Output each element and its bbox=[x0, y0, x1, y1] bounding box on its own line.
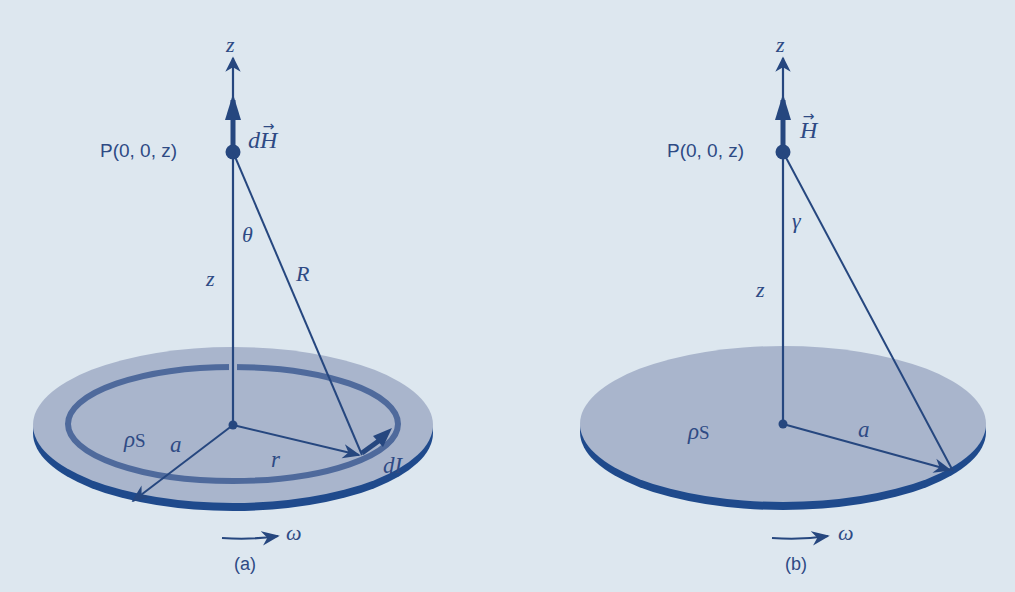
omega-label-a: ω bbox=[286, 522, 302, 544]
dH-var: →H bbox=[260, 128, 277, 152]
panel-a-graphics bbox=[33, 58, 433, 539]
dH-label: d→H bbox=[248, 128, 277, 152]
gamma-label: γ bbox=[792, 210, 801, 232]
H-label: →H bbox=[800, 118, 817, 142]
dI-label: dI bbox=[383, 454, 402, 477]
dH-prefix: d bbox=[248, 127, 260, 153]
caption-a: (a) bbox=[234, 555, 256, 573]
H-var: →H bbox=[800, 118, 817, 142]
point-p-label-b: P(0, 0, z) bbox=[667, 141, 744, 160]
z-axis-label-b: z bbox=[776, 34, 785, 56]
point-p-text-b: P(0, 0, z) bbox=[667, 140, 744, 161]
z-height-label-b: z bbox=[756, 279, 765, 301]
point-p-label-a: P(0, 0, z) bbox=[100, 141, 177, 160]
figure: z P(0, 0, z) d→H θ z R ρS a r dI ω (a) z… bbox=[0, 0, 1015, 592]
diagram-graphics bbox=[0, 0, 1015, 592]
rho-s-label-a: ρS bbox=[124, 428, 146, 451]
r-label: r bbox=[271, 448, 280, 471]
panel-b-graphics bbox=[580, 58, 986, 539]
theta-label: θ bbox=[242, 224, 253, 246]
z-height-label-a: z bbox=[206, 268, 215, 290]
rotation-arrow-a bbox=[222, 536, 278, 539]
rho-s-label-b: ρS bbox=[688, 420, 710, 443]
a-label-b: a bbox=[858, 418, 870, 441]
a-label-a: a bbox=[170, 433, 182, 456]
point-p-text: P(0, 0, z) bbox=[100, 140, 177, 161]
vector-arrow-icon: → bbox=[260, 119, 277, 133]
R-label: R bbox=[296, 263, 309, 285]
z-axis-label-a: z bbox=[226, 34, 235, 56]
omega-label-b: ω bbox=[838, 522, 854, 544]
vector-arrow-icon-b: → bbox=[800, 109, 817, 123]
rotation-arrow-b bbox=[772, 536, 828, 539]
caption-b: (b) bbox=[785, 555, 807, 573]
